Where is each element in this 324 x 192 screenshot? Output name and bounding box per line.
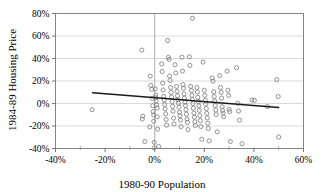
data-point <box>218 85 222 89</box>
data-point <box>140 117 144 121</box>
data-point <box>207 139 211 143</box>
data-point <box>168 74 172 78</box>
data-point <box>205 111 209 115</box>
x-tick-label: 40% <box>245 155 263 165</box>
data-point <box>164 112 168 116</box>
data-point <box>184 108 188 112</box>
x-tick-label: 20% <box>196 155 214 165</box>
data-point <box>198 119 202 123</box>
data-point <box>199 125 203 129</box>
data-point <box>189 89 193 93</box>
data-point <box>218 74 222 78</box>
data-point <box>170 99 174 103</box>
x-tick-label: 0% <box>148 155 161 165</box>
data-point <box>226 88 230 92</box>
scatter-chart-figure: -40%-20%0%20%40%60% -40%-20%0%20%40%60%8… <box>0 0 324 192</box>
data-point <box>227 93 231 97</box>
data-point <box>190 16 194 20</box>
data-point <box>213 103 217 107</box>
data-point <box>198 114 202 118</box>
data-point <box>161 81 165 85</box>
data-point <box>175 89 179 93</box>
data-point <box>163 102 167 106</box>
data-point <box>191 106 195 110</box>
data-point <box>212 94 216 98</box>
x-tick-label: 60% <box>295 155 313 165</box>
data-point <box>220 96 224 100</box>
data-point <box>196 95 200 99</box>
data-point <box>140 48 144 52</box>
data-point <box>172 122 176 126</box>
x-tick-label: -40% <box>45 155 66 165</box>
y-axis-ticks <box>52 14 56 149</box>
data-point <box>182 92 186 96</box>
data-point <box>143 139 147 143</box>
data-point <box>228 139 232 143</box>
data-point <box>234 66 238 70</box>
data-point <box>160 62 164 66</box>
data-point <box>205 116 209 120</box>
data-point <box>240 142 244 146</box>
data-point <box>148 74 152 78</box>
data-point <box>236 109 240 113</box>
data-point <box>204 107 208 111</box>
data-point <box>195 90 199 94</box>
data-point <box>148 125 152 129</box>
data-point <box>149 83 153 87</box>
y-tick-label: 0% <box>37 99 50 109</box>
data-point <box>152 146 156 150</box>
y-tick-label: 40% <box>32 54 50 64</box>
data-point <box>175 94 179 98</box>
y-tick-label: 20% <box>32 76 50 86</box>
data-point <box>152 119 156 123</box>
data-point <box>225 69 229 73</box>
data-point <box>173 63 177 67</box>
y-tick-label: -40% <box>29 144 50 154</box>
x-tick-label: -20% <box>95 155 116 165</box>
data-point <box>203 93 207 97</box>
data-point <box>237 118 241 122</box>
data-point <box>168 78 172 82</box>
data-point <box>174 84 178 88</box>
y-tick-label: 60% <box>32 31 50 41</box>
data-point <box>212 90 216 94</box>
data-point <box>206 121 210 125</box>
data-point <box>195 85 199 89</box>
data-point <box>186 128 190 132</box>
data-point <box>169 90 173 94</box>
data-point <box>200 137 204 141</box>
y-axis-tick-labels: -40%-20%0%20%40%60%80% <box>29 9 50 154</box>
data-point <box>189 84 193 88</box>
data-point <box>165 123 169 127</box>
data-point <box>90 108 94 112</box>
data-point <box>192 111 196 115</box>
y-tick-label: 80% <box>32 9 50 19</box>
data-point <box>161 88 165 92</box>
data-point <box>157 144 161 148</box>
data-point <box>166 38 170 42</box>
data-point <box>276 94 280 98</box>
data-point <box>219 90 223 94</box>
data-point <box>151 104 155 108</box>
data-point <box>197 104 201 108</box>
data-point <box>188 63 192 67</box>
data-point <box>192 115 196 119</box>
data-point <box>179 125 183 129</box>
data-point <box>178 118 182 122</box>
x-axis-title: 1980-90 Population <box>0 178 324 190</box>
chart-canvas: -40%-20%0%20%40%60% -40%-20%0%20%40%60%8… <box>0 0 324 192</box>
data-point <box>174 71 178 75</box>
y-axis-title: 1984-89 Housing Price <box>6 10 18 150</box>
data-point <box>197 108 201 112</box>
data-point <box>171 109 175 113</box>
data-point <box>180 69 184 73</box>
data-point <box>171 104 175 108</box>
data-point <box>171 116 175 120</box>
data-point <box>169 85 173 89</box>
data-point <box>277 135 281 139</box>
data-point <box>152 140 156 144</box>
data-point <box>252 98 256 102</box>
data-point <box>156 127 160 131</box>
data-point <box>206 126 210 130</box>
data-point <box>160 70 164 74</box>
